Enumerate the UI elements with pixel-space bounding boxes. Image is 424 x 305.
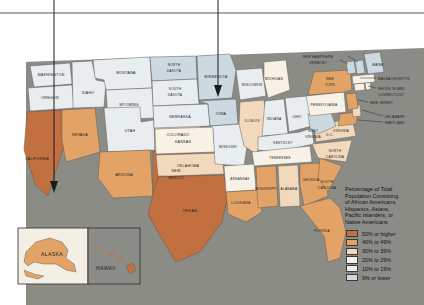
state-connecticut <box>354 83 365 91</box>
legend-item-20-to-29: 20% to 29% <box>346 256 424 264</box>
state-new-york <box>308 70 352 95</box>
legend-item-10-to-19: 10% to 19% <box>346 265 424 273</box>
legend-swatch-50-or-higher <box>346 230 358 237</box>
hawaii-inset: HAWAII <box>88 228 140 284</box>
alaska-inset: ALASKA <box>18 228 88 284</box>
state-pennsylvania <box>306 92 346 116</box>
state-indiana <box>262 99 288 136</box>
state-mississippi <box>256 166 278 208</box>
state-alabama <box>278 165 300 207</box>
legend-swatch-20-to-29 <box>346 256 358 263</box>
state-nevada <box>62 108 100 162</box>
label-alaska: ALASKA <box>41 251 63 257</box>
state-new-hampshire <box>355 60 365 74</box>
map-legend: Percentage of Total Population Consistin… <box>343 186 424 282</box>
legend-item-50-or-higher: 50% or higher <box>346 230 424 238</box>
label-hawaii: HAWAII <box>96 265 116 271</box>
legend-swatch-30-to-39 <box>346 248 358 255</box>
legend-label-9-or-lower: 9% or lower <box>362 275 391 281</box>
state-oregon <box>28 85 74 111</box>
state-north-dakota <box>150 56 197 81</box>
legend-label-40-to-49: 40% to 49% <box>362 239 391 245</box>
legend-label-50-or-higher: 50% or higher <box>362 231 396 237</box>
state-massachusetts <box>352 74 375 84</box>
legend-title: Percentage of Total Population Consistin… <box>345 186 424 226</box>
legend-label-20-to-29: 20% to 29% <box>362 257 391 263</box>
legend-swatch-10-to-19 <box>346 265 358 272</box>
state-minnesota <box>197 54 236 100</box>
state-south-dakota <box>152 79 199 106</box>
legend-swatch-9-or-lower <box>346 274 358 281</box>
legend-item-40-to-49: 40% to 49% <box>346 238 424 246</box>
state-kansas <box>155 127 215 154</box>
state-new-jersey <box>346 93 358 110</box>
us-choropleth-map: WASHINGTON OREGON CALIFORNIA NEVADA IDAH… <box>0 0 424 305</box>
state-wisconsin <box>236 68 266 100</box>
legend-rows: 50% or higher 40% to 49% 30% to 39% 20% … <box>346 230 424 282</box>
state-oklahoma <box>156 153 224 176</box>
legend-label-10-to-19: 10% to 19% <box>362 266 391 272</box>
state-arkansas <box>224 164 256 192</box>
legend-item-9-or-lower: 9% or lower <box>346 273 424 281</box>
legend-swatch-40-to-49 <box>346 239 358 246</box>
state-nebraska <box>153 104 210 128</box>
legend-item-30-to-39: 30% to 39% <box>346 247 424 255</box>
legend-label-30-to-39: 30% to 39% <box>362 248 391 254</box>
state-washington <box>30 63 72 87</box>
state-vermont <box>346 61 356 74</box>
